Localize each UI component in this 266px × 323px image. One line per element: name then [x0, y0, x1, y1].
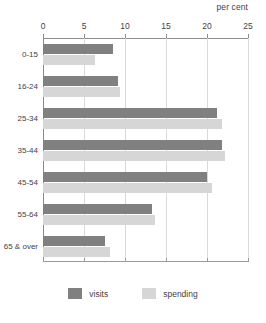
bar-spending	[43, 119, 222, 129]
tick-mark-10	[125, 34, 126, 38]
bar-spending	[43, 247, 110, 257]
tick-mark-15	[166, 34, 167, 38]
gridline-25	[248, 38, 249, 262]
bar-group: 55-64	[43, 203, 248, 225]
bar-group: 65 & over	[43, 235, 248, 257]
x-tick-label: 25	[243, 21, 252, 31]
bar-spending	[43, 151, 225, 161]
category-label: 16-24	[18, 82, 38, 91]
tick-mark-25	[248, 34, 249, 38]
legend-swatch-spending	[142, 288, 156, 299]
plot-area: 0510152025 0-1516-2425-3435-4445-5455-64…	[43, 38, 248, 262]
tick-mark-bottom-25	[248, 258, 249, 262]
legend-label: spending	[163, 289, 198, 299]
category-label: 55-64	[18, 210, 38, 219]
bottom-axis-line	[43, 261, 248, 262]
bar-group: 0-15	[43, 43, 248, 65]
x-tick-label: 5	[82, 21, 87, 31]
tick-mark-bottom-15	[166, 258, 167, 262]
tick-mark-5	[84, 34, 85, 38]
x-tick-label: 15	[161, 21, 170, 31]
bar-spending	[43, 87, 120, 97]
tick-mark-20	[207, 34, 208, 38]
bar-chart: per cent 0510152025 0-1516-2425-3435-444…	[0, 0, 266, 323]
x-tick-label: 20	[202, 21, 211, 31]
bar-visits	[43, 108, 217, 118]
legend-label: visits	[89, 289, 108, 299]
bar-spending	[43, 55, 95, 65]
bar-group: 35-44	[43, 139, 248, 161]
tick-mark-bottom-0	[43, 258, 44, 262]
category-label: 35-44	[18, 146, 38, 155]
x-tick-label: 10	[120, 21, 129, 31]
legend-item-spending[interactable]: spending	[142, 288, 198, 299]
category-label: 25-34	[18, 114, 38, 123]
tick-mark-0	[43, 34, 44, 38]
category-label: 0-15	[22, 50, 38, 59]
bar-visits	[43, 236, 105, 246]
tick-mark-bottom-10	[125, 258, 126, 262]
chart-legend: visitsspending	[0, 288, 266, 299]
bar-visits	[43, 204, 152, 214]
bar-visits	[43, 44, 113, 54]
category-label: 45-54	[18, 178, 38, 187]
bar-spending	[43, 183, 212, 193]
tick-mark-bottom-5	[84, 258, 85, 262]
bar-group: 16-24	[43, 75, 248, 97]
bar-visits	[43, 140, 222, 150]
axis-unit-caption: per cent	[216, 2, 248, 12]
bar-group: 45-54	[43, 171, 248, 193]
bar-group: 25-34	[43, 107, 248, 129]
bar-visits	[43, 76, 118, 86]
x-tick-label: 0	[41, 21, 46, 31]
bar-spending	[43, 215, 155, 225]
legend-swatch-visits	[68, 288, 82, 299]
category-label: 65 & over	[4, 242, 38, 251]
top-axis-line	[43, 38, 248, 39]
bar-visits	[43, 172, 207, 182]
legend-item-visits[interactable]: visits	[68, 288, 108, 299]
tick-mark-bottom-20	[207, 258, 208, 262]
